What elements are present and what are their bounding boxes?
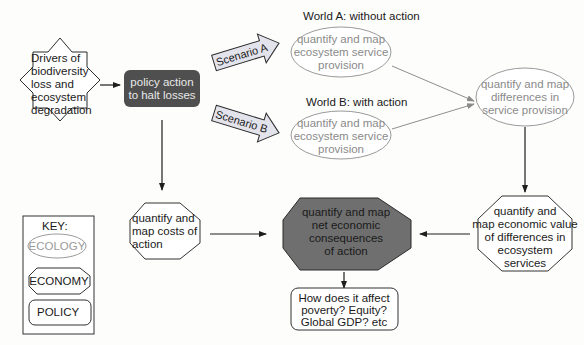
drivers-line-4: ecosystem — [31, 91, 86, 103]
net-consequences-line-4: of action — [324, 245, 367, 257]
world-a-title: World A: without action — [303, 10, 420, 22]
impacts-line-1: How does it affect — [298, 292, 390, 304]
legend: KEY: ECOLOGY ECONOMY POLICY — [23, 216, 94, 334]
node-differences[interactable]: quantify and map differences in service … — [476, 68, 574, 126]
legend-economy-label: ECONOMY — [29, 275, 89, 287]
net-consequences-line-3: consequences — [309, 232, 383, 244]
costs-line-3: action — [132, 238, 163, 250]
world-a-line-3: provision — [318, 59, 364, 71]
node-world-b[interactable]: World B: with action quantify and map ec… — [291, 96, 407, 159]
flow-diagram: Drivers of biodiversity loss and ecosyst… — [0, 0, 584, 345]
legend-ecology-label: ECOLOGY — [29, 240, 86, 252]
policy-action-line-1: policy action — [130, 76, 193, 88]
drivers-line-5: degradation — [31, 104, 92, 116]
costs-line-2: map costs of — [132, 225, 198, 237]
policy-action-line-2: to halt losses — [128, 89, 195, 101]
net-consequences-line-1: quantify and map — [302, 206, 390, 218]
costs-line-1: quantify and — [132, 212, 195, 224]
scenario-b-label: Scenario B — [214, 108, 269, 135]
differences-line-2: differences in — [491, 91, 559, 103]
net-consequences-line-2: net economic — [312, 219, 381, 231]
drivers-line-3: loss and — [31, 78, 74, 90]
economic-value-line-4: ecosystem — [498, 244, 553, 256]
world-a-line-1: quantify and map — [297, 33, 385, 45]
scenario-a-arrow[interactable]: Scenario A — [210, 29, 284, 78]
differences-line-3: service provision — [482, 104, 568, 116]
scenario-a-label: Scenario A — [215, 41, 270, 68]
economic-value-line-3: of differences in — [485, 231, 566, 243]
legend-title: KEY: — [42, 220, 68, 232]
node-world-a[interactable]: World A: without action quantify and map… — [291, 10, 420, 77]
economic-value-line-5: services — [504, 257, 546, 269]
differences-line-1: quantify and map — [481, 78, 569, 90]
node-impacts[interactable]: How does it affect poverty? Equity? Glob… — [291, 288, 398, 330]
drivers-line-2: biodiversity — [31, 65, 89, 77]
economic-value-line-2: map economic value — [472, 218, 577, 230]
scenario-b-arrow[interactable]: Scenario B — [210, 99, 284, 148]
world-b-line-1: quantify and map — [297, 117, 385, 129]
economic-value-line-1: quantify and — [494, 205, 557, 217]
impacts-line-3: Global GDP? etc — [301, 316, 388, 328]
diagram-canvas: Drivers of biodiversity loss and ecosyst… — [0, 0, 584, 345]
node-policy-action[interactable]: policy action to halt losses — [124, 70, 200, 107]
node-net-consequences[interactable]: quantify and map net economic consequenc… — [283, 198, 411, 270]
node-economic-value[interactable]: quantify and map economic value of diffe… — [472, 196, 577, 271]
legend-policy-label: POLICY — [37, 306, 80, 318]
node-drivers[interactable]: Drivers of biodiversity loss and ecosyst… — [20, 38, 100, 121]
node-costs[interactable]: quantify and map costs of action — [130, 203, 200, 259]
drivers-line-1: Drivers of — [31, 52, 81, 64]
world-b-line-2: ecosystem service — [294, 130, 389, 142]
world-b-line-3: provision — [318, 143, 364, 155]
world-a-line-2: ecosystem service — [294, 46, 389, 58]
world-b-title: World B: with action — [306, 96, 407, 108]
impacts-line-2: poverty? Equity? — [301, 304, 387, 316]
